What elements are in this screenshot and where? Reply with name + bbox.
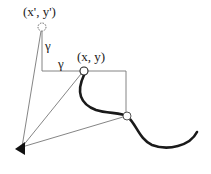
ray-to-curve-point (22, 117, 123, 147)
ray-to-current-point (22, 74, 81, 147)
current-point-marker (80, 67, 88, 75)
ray-to-prev-point (22, 31, 41, 147)
prev-point-marker (38, 23, 46, 31)
gamma-horizontal-label: γ (57, 56, 64, 71)
prev-point-label: (x', y') (23, 4, 56, 19)
current-point-label: (x, y) (77, 49, 105, 64)
curve-point-marker (123, 112, 131, 120)
gamma-vertical-label: γ (44, 38, 51, 53)
origin-triangle-icon (15, 142, 25, 155)
diagram-canvas: (x', y') γ γ (x, y) (0, 0, 211, 174)
trajectory-curve (80, 75, 197, 147)
